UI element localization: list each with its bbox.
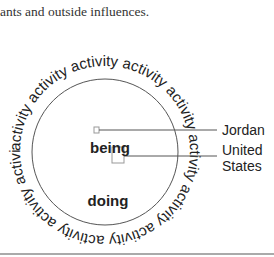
jordan-label: Jordan xyxy=(222,122,265,138)
ring-text: activity activity activity activity acti… xyxy=(0,0,204,250)
being-label: being xyxy=(90,139,130,156)
activity-diagram: activity activity activity activity acti… xyxy=(0,0,274,257)
ring-text-path: activity activity activity activity acti… xyxy=(0,0,204,250)
united-states-label-line2: States xyxy=(222,158,262,174)
doing-label: doing xyxy=(88,192,129,209)
bottom-divider xyxy=(0,253,274,255)
jordan-marker xyxy=(94,127,99,133)
united-states-label-line1: United xyxy=(222,142,262,158)
